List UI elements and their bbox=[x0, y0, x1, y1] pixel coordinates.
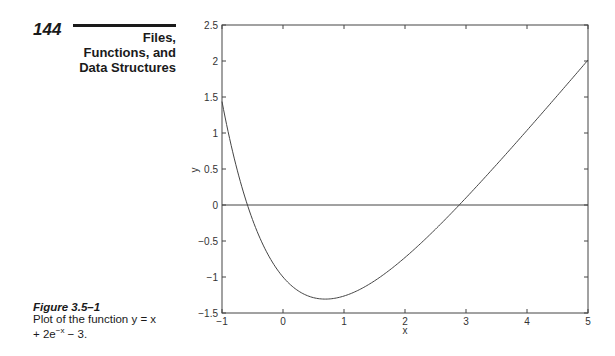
y-tick-label: −1.5 bbox=[198, 308, 218, 319]
x-tick-label: 1 bbox=[341, 316, 347, 327]
y-axis-ticks: −1.5−1−0.500.511.522.5 bbox=[198, 20, 588, 319]
y-tick-label: −1 bbox=[207, 272, 219, 283]
y-tick-label: 0.5 bbox=[204, 164, 218, 175]
x-axis-label: x bbox=[403, 325, 408, 336]
y-axis-label: y bbox=[189, 168, 200, 173]
y-tick-label: 2.5 bbox=[204, 20, 218, 31]
x-tick-label: −1 bbox=[216, 316, 228, 327]
x-tick-label: 0 bbox=[280, 316, 286, 327]
y-tick-label: 1.5 bbox=[204, 92, 218, 103]
function-curve bbox=[222, 60, 588, 299]
y-tick-label: 0 bbox=[212, 200, 218, 211]
y-tick-label: 1 bbox=[212, 128, 218, 139]
y-tick-label: −0.5 bbox=[198, 236, 218, 247]
y-tick-label: 2 bbox=[212, 56, 218, 67]
x-axis-ticks: −1012345 bbox=[216, 25, 591, 327]
x-tick-label: 3 bbox=[463, 316, 469, 327]
x-tick-label: 4 bbox=[524, 316, 530, 327]
function-plot: −1012345 −1.5−1−0.500.511.522.5 x y bbox=[0, 0, 615, 356]
x-tick-label: 5 bbox=[585, 316, 591, 327]
